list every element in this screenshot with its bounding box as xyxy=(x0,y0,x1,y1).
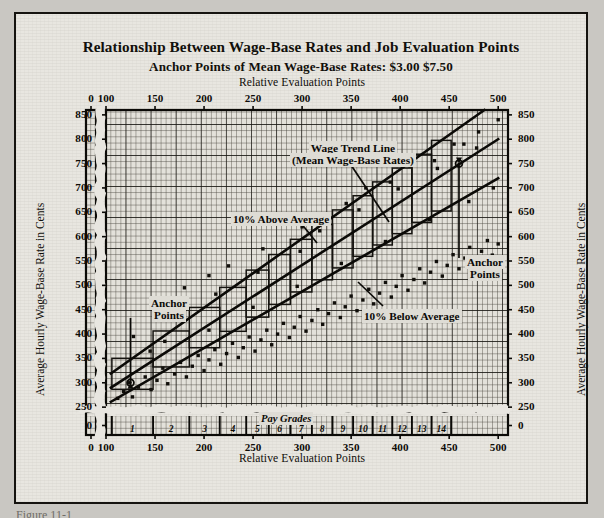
y-tick-left-600: 600 xyxy=(40,230,92,242)
pay-grade-label-3: 3 xyxy=(196,423,214,434)
x-tick-top-100: 100 xyxy=(90,92,122,104)
pay-grade-label-13: 13 xyxy=(413,423,431,434)
y-tick-left-650: 650 xyxy=(40,205,92,217)
figure-page: Relationship Between Wage-Base Rates and… xyxy=(0,0,604,518)
annotation-below-average: 10% Below Average xyxy=(363,310,461,322)
pay-grade-label-7: 7 xyxy=(292,423,310,434)
y-tick-right-300: 300 xyxy=(518,376,535,388)
annotation-trend-line-2: (Mean Wage-Base Rates) xyxy=(291,154,415,166)
x-tick-bottom-300: 300 xyxy=(286,441,318,453)
pay-grade-label-6: 6 xyxy=(271,423,289,434)
x-tick-top-350: 350 xyxy=(335,92,367,104)
pay-grade-label-5: 5 xyxy=(248,423,266,434)
y-tick-right-0: 0 xyxy=(518,419,524,431)
y-tick-right-400: 400 xyxy=(518,327,535,339)
pay-grade-label-1: 1 xyxy=(123,423,141,434)
annotation-below-average-text: 10% Below Average xyxy=(363,310,461,322)
x-tick-bottom-350: 350 xyxy=(335,441,367,453)
pay-grade-label-8: 8 xyxy=(313,423,331,434)
y-tick-left-850: 850 xyxy=(40,108,92,120)
y-tick-left-550: 550 xyxy=(40,254,92,266)
y-tick-right-650: 650 xyxy=(518,205,535,217)
annotation-above-average: 10% Above Average xyxy=(232,213,330,225)
annotation-above-average-text: 10% Above Average xyxy=(232,213,330,225)
x-tick-top-250: 250 xyxy=(237,92,269,104)
pay-grade-label-14: 14 xyxy=(432,423,450,434)
y-tick-left-250: 250 xyxy=(40,400,92,412)
pay-grade-label-10: 10 xyxy=(354,423,372,434)
x-tick-top-150: 150 xyxy=(139,92,171,104)
x-tick-top-400: 400 xyxy=(384,92,416,104)
x-tick-top-500: 500 xyxy=(482,92,514,104)
y-tick-left-350: 350 xyxy=(40,351,92,363)
y-tick-left-400: 400 xyxy=(40,327,92,339)
annotation-trend-line-1: Wage Trend Line xyxy=(310,142,396,154)
x-tick-bottom-200: 200 xyxy=(188,441,220,453)
y-tick-right-850: 850 xyxy=(518,108,535,120)
y-tick-right-750: 750 xyxy=(518,157,535,169)
y-tick-right-700: 700 xyxy=(518,181,535,193)
y-tick-left-800: 800 xyxy=(40,132,92,144)
x-tick-bottom-400: 400 xyxy=(384,441,416,453)
pay-grade-label-4: 4 xyxy=(224,423,242,434)
annotation-anchor-points-right: Anchor Points xyxy=(466,256,504,280)
y-tick-right-500: 500 xyxy=(518,278,535,290)
x-tick-bottom-250: 250 xyxy=(237,441,269,453)
annotation-anchor-points-left: Anchor Points xyxy=(150,297,188,321)
y-tick-right-450: 450 xyxy=(518,303,535,315)
anchor-right-line2: Points xyxy=(469,268,501,280)
y-tick-left-0: 0 xyxy=(40,419,92,431)
y-tick-right-350: 350 xyxy=(518,351,535,363)
pay-grade-label-11: 11 xyxy=(373,423,391,434)
x-tick-bottom-100: 100 xyxy=(90,441,122,453)
x-tick-bottom-450: 450 xyxy=(433,441,465,453)
x-tick-top-300: 300 xyxy=(286,92,318,104)
x-tick-top-200: 200 xyxy=(188,92,220,104)
pay-grade-label-2: 2 xyxy=(162,423,180,434)
y-tick-right-550: 550 xyxy=(518,254,535,266)
y-tick-left-750: 750 xyxy=(40,157,92,169)
y-tick-right-800: 800 xyxy=(518,132,535,144)
anchor-left-line1: Anchor xyxy=(150,297,188,309)
x-tick-bottom-500: 500 xyxy=(482,441,514,453)
pay-grade-label-12: 12 xyxy=(393,423,411,434)
figure-caption-fragment: Figure 11-1 xyxy=(16,508,72,518)
x-tick-bottom-150: 150 xyxy=(139,441,171,453)
annotation-wage-trend-line: Wage Trend Line (Mean Wage-Base Rates) xyxy=(291,142,415,167)
y-tick-right-600: 600 xyxy=(518,230,535,242)
y-tick-left-500: 500 xyxy=(40,278,92,290)
y-tick-left-450: 450 xyxy=(40,303,92,315)
y-tick-right-250: 250 xyxy=(518,400,535,412)
anchor-right-line1: Anchor xyxy=(466,256,504,268)
anchor-left-line2: Points xyxy=(153,309,185,321)
y-tick-left-700: 700 xyxy=(40,181,92,193)
x-tick-top-450: 450 xyxy=(433,92,465,104)
pay-grade-label-9: 9 xyxy=(334,423,352,434)
y-tick-left-300: 300 xyxy=(40,376,92,388)
